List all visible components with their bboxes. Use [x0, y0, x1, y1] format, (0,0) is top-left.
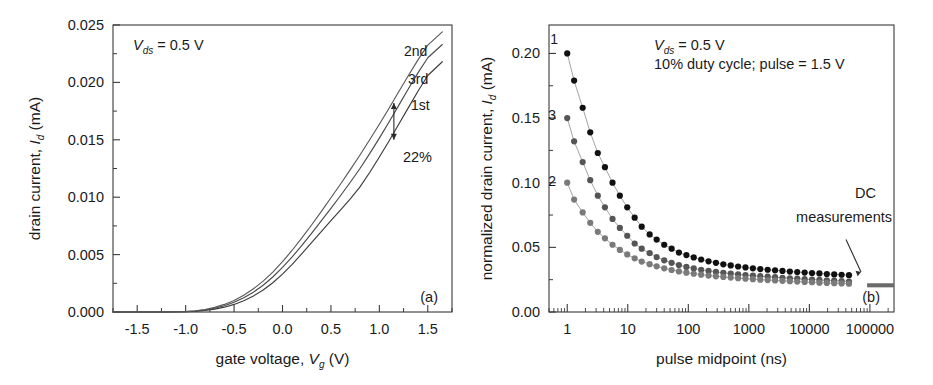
- data-point: [624, 204, 630, 210]
- data-point: [809, 279, 815, 285]
- data-point: [831, 280, 837, 286]
- data-point: [654, 263, 660, 269]
- data-point: [571, 196, 577, 202]
- x-tick-label: 0.0: [272, 321, 292, 337]
- data-point: [602, 235, 608, 241]
- y-tick-label: 0.025: [68, 17, 104, 33]
- panel-b-curve-label-1: 1: [550, 31, 558, 47]
- data-point: [683, 264, 689, 270]
- x-tick-label: -1.0: [173, 321, 198, 337]
- data-point: [661, 257, 667, 263]
- data-point: [691, 265, 697, 271]
- data-point: [587, 129, 593, 135]
- y-tick-label: 0.05: [512, 239, 540, 255]
- panel-b-curve-label-3: 3: [548, 107, 556, 123]
- panel-a-curve-label-3rd: 3rd: [408, 71, 428, 87]
- figure-container: 0.0000.0050.0100.0150.0200.025-1.5-1.0-0…: [0, 0, 933, 385]
- data-point: [757, 277, 763, 283]
- data-point: [647, 250, 653, 256]
- curve-1st: [113, 62, 442, 312]
- panel-a-curve-label-1st: 1st: [411, 97, 430, 113]
- x-tick-label: -0.5: [222, 321, 247, 337]
- data-point: [564, 115, 570, 121]
- panel-a-yaxis-title: drain current, Id (mA): [26, 97, 46, 240]
- panel-a-tag: (a): [420, 289, 438, 305]
- data-point: [564, 50, 570, 56]
- data-point: [779, 268, 785, 274]
- data-point: [802, 279, 808, 285]
- data-point: [698, 272, 704, 278]
- data-point: [691, 271, 697, 277]
- data-point: [580, 159, 586, 165]
- data-point: [676, 262, 682, 268]
- x-tick-label: 1.5: [418, 321, 438, 337]
- data-point: [683, 252, 689, 258]
- data-point: [816, 280, 822, 286]
- data-point: [750, 276, 756, 282]
- data-point: [720, 274, 726, 280]
- data-point: [698, 256, 704, 262]
- y-tick-label: 0.00: [512, 304, 540, 320]
- data-point: [787, 268, 793, 274]
- data-point: [602, 164, 608, 170]
- data-point: [779, 278, 785, 284]
- x-tick-label: 1: [563, 321, 571, 337]
- panel-b-tag: (b): [862, 289, 880, 305]
- data-point: [691, 254, 697, 260]
- panel-b-curve-label-2: 2: [548, 173, 556, 189]
- data-point: [624, 233, 630, 239]
- data-point: [742, 276, 748, 282]
- data-point: [757, 266, 763, 272]
- data-point: [824, 280, 830, 286]
- data-point: [661, 265, 667, 271]
- y-tick-label: 0.010: [68, 189, 104, 205]
- data-point: [676, 268, 682, 274]
- data-point: [647, 261, 653, 267]
- data-point: [772, 267, 778, 273]
- curve-3rd: [113, 45, 442, 312]
- panel-a-frame: [113, 25, 452, 312]
- data-point: [809, 270, 815, 276]
- data-point: [669, 267, 675, 273]
- data-point: [728, 275, 734, 281]
- data-point: [831, 271, 837, 277]
- panel-b-vds-annotation: Vds = 0.5 V: [654, 37, 725, 56]
- panel-b: 0.000.050.100.150.2011010010001000010000…: [466, 0, 933, 385]
- data-point: [595, 193, 601, 199]
- data-point: [639, 246, 645, 252]
- data-point: [654, 237, 660, 243]
- x-tick-label: -1.5: [125, 321, 150, 337]
- y-tick-label: 0.15: [512, 110, 540, 126]
- data-point: [571, 138, 577, 144]
- data-point: [617, 225, 623, 231]
- dc-arrow-shaft: [846, 240, 861, 272]
- data-point: [720, 261, 726, 267]
- data-point: [794, 279, 800, 285]
- data-point: [683, 270, 689, 276]
- data-point: [676, 249, 682, 255]
- data-point: [564, 180, 570, 186]
- data-point: [839, 280, 845, 286]
- data-point: [669, 260, 675, 266]
- x-tick-label: 1000: [733, 321, 765, 337]
- data-point: [632, 255, 638, 261]
- data-point: [654, 254, 660, 260]
- data-point: [624, 251, 630, 257]
- x-tick-label: 10: [620, 321, 636, 337]
- data-point: [713, 273, 719, 279]
- data-point: [602, 204, 608, 210]
- data-point: [735, 263, 741, 269]
- panel-b-yaxis-title: normalized drain current, Id (mA): [478, 57, 498, 281]
- data-point: [705, 258, 711, 264]
- y-tick-label: 0.10: [512, 175, 540, 191]
- y-tick-label: 0.005: [68, 247, 104, 263]
- data-point: [765, 267, 771, 273]
- panel-a-delta-label: 22%: [403, 149, 432, 165]
- data-point: [742, 264, 748, 270]
- y-tick-label: 0.015: [68, 132, 104, 148]
- data-point: [617, 193, 623, 199]
- x-tick-label: 1.0: [369, 321, 389, 337]
- dc-label-line2: measurements: [796, 209, 892, 225]
- data-point: [728, 262, 734, 268]
- data-point: [587, 220, 593, 226]
